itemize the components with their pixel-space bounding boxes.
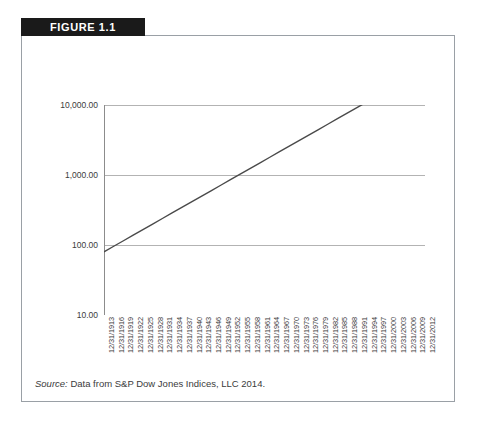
- y-tick-label: 10.00: [36, 310, 98, 320]
- y-tick-label: 100.00: [36, 240, 98, 250]
- source-note: Source: Data from S&P Dow Jones Indices,…: [35, 378, 265, 389]
- x-tick-label: 12/31/1913: [107, 317, 116, 353]
- y-tick-label: 10,000.00: [36, 100, 98, 110]
- x-tick-label: 12/31/1979: [321, 317, 330, 353]
- plot-area: [104, 105, 425, 315]
- x-tick-label: 12/31/1970: [292, 317, 301, 353]
- x-tick-label: 12/31/2006: [409, 317, 418, 353]
- y-tick-label: 1,000.00: [36, 170, 98, 180]
- x-tick-label: 12/31/1973: [302, 317, 311, 353]
- x-tick-label: 12/31/1916: [117, 317, 126, 353]
- x-tick-label: 12/31/1991: [360, 317, 369, 353]
- x-tick-label: 12/31/1955: [243, 317, 252, 353]
- x-tick-label: 12/31/1943: [204, 317, 213, 353]
- source-note-text: Data from S&P Dow Jones Indices, LLC 201…: [68, 378, 265, 389]
- figure-banner-label: FIGURE 1.1: [50, 21, 116, 33]
- x-tick-label: 12/31/1985: [340, 317, 349, 353]
- y-axis-labels: 10.00100.001,000.0010,000.00: [36, 0, 98, 421]
- source-note-label: Source:: [35, 378, 68, 389]
- x-tick-label: 12/31/1940: [195, 317, 204, 353]
- x-tick-label: 12/31/2000: [389, 317, 398, 353]
- x-tick-label: 12/31/1994: [370, 317, 379, 353]
- x-tick-label: 12/31/2012: [428, 317, 437, 353]
- x-tick-label: 12/31/1964: [272, 317, 281, 353]
- x-tick-label: 12/31/1967: [282, 317, 291, 353]
- x-tick-label: 12/31/1925: [146, 317, 155, 353]
- x-tick-label: 12/31/1952: [233, 317, 242, 353]
- figure-banner: FIGURE 1.1: [21, 18, 145, 36]
- x-tick-label: 12/31/2003: [399, 317, 408, 353]
- chart-canvas: [104, 105, 425, 315]
- x-tick-label: 12/31/1949: [224, 317, 233, 353]
- x-tick-label: 12/31/1997: [379, 317, 388, 353]
- x-tick-label: 12/31/1928: [156, 317, 165, 353]
- x-tick-label: 12/31/1982: [331, 317, 340, 353]
- x-tick-label: 12/31/1931: [165, 317, 174, 353]
- x-tick-label: 12/31/1937: [185, 317, 194, 353]
- x-tick-label: 12/31/1946: [214, 317, 223, 353]
- x-tick-label: 12/31/1958: [253, 317, 262, 353]
- x-tick-label: 12/31/1919: [126, 317, 135, 353]
- x-tick-label: 12/31/1961: [263, 317, 272, 353]
- series-line: [104, 105, 425, 252]
- x-tick-label: 12/31/1934: [175, 317, 184, 353]
- x-tick-label: 12/31/1976: [311, 317, 320, 353]
- x-tick-label: 12/31/2009: [418, 317, 427, 353]
- x-axis-labels: 12/31/191312/31/191612/31/191912/31/1922…: [104, 317, 425, 363]
- x-tick-label: 12/31/1922: [136, 317, 145, 353]
- x-tick-label: 12/31/1988: [350, 317, 359, 353]
